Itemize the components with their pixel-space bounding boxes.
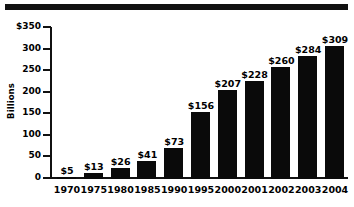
x-axis-tick-label: 1980 [106, 184, 136, 195]
y-axis-tick-label: 0 [1, 173, 41, 182]
y-axis-tick-label: 100 [1, 130, 41, 139]
bar [298, 56, 317, 179]
y-axis-tick [43, 26, 51, 28]
bar-group: $309 [322, 21, 348, 179]
y-axis-tick [43, 48, 51, 50]
y-axis-tick-labels: 050100150200250300$350 [0, 0, 41, 207]
bar-group: $5 [54, 21, 80, 179]
y-axis-tick [43, 91, 51, 93]
bar [57, 177, 76, 179]
bar [218, 90, 237, 179]
x-axis-tick-label: 2000 [213, 184, 243, 195]
y-axis-tick-label: 300 [1, 44, 41, 53]
bar [84, 173, 103, 179]
x-axis-tick-label: 2001 [240, 184, 270, 195]
y-axis-tick [43, 177, 51, 179]
x-axis-tick-label: 1970 [52, 184, 82, 195]
x-axis-tick-label: 1985 [132, 184, 162, 195]
x-axis-tick-label: 1990 [159, 184, 189, 195]
x-axis-tick-label: 1975 [79, 184, 109, 195]
bar-group: $207 [215, 21, 241, 179]
bar [271, 67, 290, 179]
bar-value-label: $309 [316, 35, 354, 45]
bar-group: $228 [242, 21, 268, 179]
y-axis-tick-label: 250 [1, 65, 41, 74]
bar-group: $41 [134, 21, 160, 179]
y-axis-tick [43, 134, 51, 136]
y-axis-tick-label: $350 [1, 22, 41, 31]
x-axis-tick-label: 2002 [266, 184, 296, 195]
y-axis-tick-label: 200 [1, 87, 41, 96]
x-axis-tick-label: 2004 [320, 184, 350, 195]
x-axis-tick-labels: 1970197519801985199019952000200120022003… [52, 184, 348, 200]
bar [111, 168, 130, 179]
bar-chart-figure: Billions 050100150200250300$350 $5$13$26… [0, 0, 354, 207]
bar-group: $156 [188, 21, 214, 179]
top-rule-decoration [5, 4, 348, 10]
bar-group: $13 [81, 21, 107, 179]
y-axis-tick [43, 69, 51, 71]
x-axis-tick-label: 1995 [186, 184, 216, 195]
bar [191, 112, 210, 179]
y-axis-tick-label: 150 [1, 108, 41, 117]
bar [137, 161, 156, 179]
plot-area: $5$13$26$41$73$156$207$228$260$284$309 [52, 20, 348, 179]
bar [245, 81, 264, 179]
y-axis-tick [43, 112, 51, 114]
y-axis-tick [43, 155, 51, 157]
y-axis-tick-label: 50 [1, 151, 41, 160]
x-axis-tick-label: 2003 [293, 184, 323, 195]
bar [325, 46, 344, 179]
bar [164, 148, 183, 179]
